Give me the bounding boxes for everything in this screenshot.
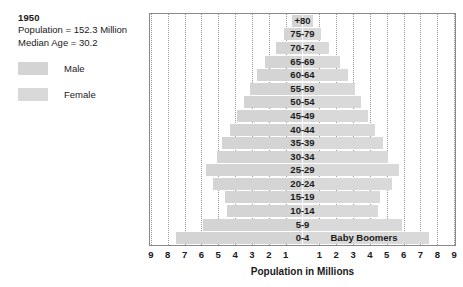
pyramid-row: 75-79	[150, 28, 455, 40]
pyramid-row: 70-74	[150, 42, 455, 54]
x-tick-label: 7	[413, 248, 427, 261]
age-group-label: 30-34	[277, 151, 329, 163]
legend-label-female: Female	[64, 89, 96, 100]
legend-label-male: Male	[64, 63, 85, 74]
x-tick-label: 3	[346, 248, 360, 261]
age-group-label: 15-19	[277, 191, 329, 203]
age-group-label: 25-29	[277, 164, 329, 176]
legend-item-female: Female	[18, 88, 146, 101]
pyramid-row: 60-64	[150, 69, 455, 81]
pyramid-row: 5-9	[150, 219, 455, 231]
x-tick-label: 9	[144, 248, 158, 261]
age-group-label: 40-44	[277, 124, 329, 136]
age-group-label: 0-4	[277, 232, 329, 244]
age-group-label: 60-64	[277, 69, 329, 81]
year-label: 1950	[18, 12, 146, 24]
x-tick-label: 2	[262, 248, 276, 261]
x-tick-label: 2	[329, 248, 343, 261]
pyramid-row: 50-54	[150, 96, 455, 108]
age-group-label: 75-79	[277, 28, 329, 40]
age-group-label: 65-69	[277, 56, 329, 68]
pyramid-row: 40-44	[150, 124, 455, 136]
population-pyramid-chart: +8075-7970-7465-6960-6455-5950-5445-4940…	[149, 13, 456, 246]
legend-swatch-male	[18, 62, 48, 75]
pyramid-row: 30-34	[150, 151, 455, 163]
age-group-label: 5-9	[277, 219, 329, 231]
legend-item-male: Male	[18, 62, 146, 75]
info-panel: 1950 Population = 152.3 Million Median A…	[18, 12, 146, 114]
baby-boomers-annotation: Baby Boomers	[331, 232, 398, 244]
age-group-label: 50-54	[277, 96, 329, 108]
legend: Male Female	[18, 62, 146, 101]
population-label: Population = 152.3 Million	[18, 24, 146, 37]
x-tick-label: 6	[397, 248, 411, 261]
x-axis-tick-labels: 987654321123456789	[149, 248, 456, 261]
x-tick-label: 5	[211, 248, 225, 261]
x-tick-label: 4	[228, 248, 242, 261]
legend-swatch-female	[18, 88, 48, 101]
x-tick-label: 3	[245, 248, 259, 261]
pyramid-rows: +8075-7970-7465-6960-6455-5950-5445-4940…	[150, 14, 455, 245]
age-group-label: 45-49	[277, 110, 329, 122]
pyramid-row: 45-49	[150, 110, 455, 122]
pyramid-row: 15-19	[150, 191, 455, 203]
age-group-label: +80	[277, 15, 329, 27]
pyramid-row: 25-29	[150, 164, 455, 176]
pyramid-row: 20-24	[150, 178, 455, 190]
x-tick-label: 9	[447, 248, 461, 261]
age-group-label: 20-24	[277, 178, 329, 190]
pyramid-row: +80	[150, 15, 455, 27]
x-axis-title: Population in Millions	[149, 266, 456, 277]
pyramid-row: 0-4Baby Boomers	[150, 232, 455, 244]
x-tick-label: 1	[312, 248, 326, 261]
age-group-label: 35-39	[277, 137, 329, 149]
median-age-label: Median Age = 30.2	[18, 37, 146, 50]
age-group-label: 70-74	[277, 42, 329, 54]
x-tick-label: 4	[363, 248, 377, 261]
pyramid-row: 65-69	[150, 56, 455, 68]
age-group-label: 55-59	[277, 83, 329, 95]
pyramid-row: 10-14	[150, 205, 455, 217]
x-tick-label: 7	[178, 248, 192, 261]
pyramid-row: 55-59	[150, 83, 455, 95]
x-tick-label: 8	[161, 248, 175, 261]
x-tick-label: 1	[279, 248, 293, 261]
x-tick-label: 6	[194, 248, 208, 261]
x-tick-label: 5	[380, 248, 394, 261]
x-tick-label: 8	[430, 248, 444, 261]
age-group-label: 10-14	[277, 205, 329, 217]
pyramid-row: 35-39	[150, 137, 455, 149]
